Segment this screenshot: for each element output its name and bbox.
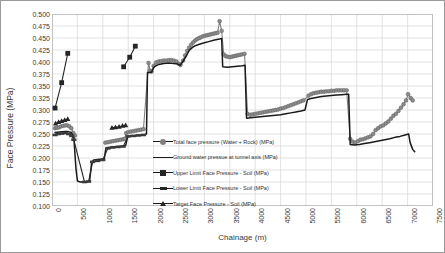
y-tick-label: 0.450 — [32, 35, 50, 42]
x-tick-label: 7000 — [411, 208, 418, 224]
x-tick-label: 6000 — [360, 208, 367, 224]
y-tick-label: 0.275 — [32, 119, 50, 126]
y-tick-label: 0.150 — [32, 179, 50, 186]
series-2 — [53, 44, 138, 111]
legend-item-2: Upper Limit Face Pressure - Soil (MPa) — [153, 165, 303, 181]
y-tick-label: 0.350 — [32, 83, 50, 90]
y-tick-label: 0.500 — [32, 11, 50, 18]
y-tick-label: 0.100 — [32, 203, 50, 210]
legend-marker-square-icon — [153, 168, 173, 178]
legend-marker-circle-icon — [153, 137, 173, 147]
x-tick-label: 0 — [55, 208, 62, 212]
legend-item-1: Ground water pressue at tunnel axis (MPa… — [153, 150, 303, 166]
legend-marker-none-icon — [153, 152, 173, 162]
chart-legend: Total face pressure (Water + Rock) (MPa)… — [153, 134, 303, 212]
series-3 — [52, 132, 146, 184]
y-tick-label: 0.250 — [32, 131, 50, 138]
y-axis-title: Face Pressure (MPa) — [0, 1, 20, 253]
legend-label: Upper Limit Face Pressure - Soil (MPa) — [173, 170, 269, 176]
chart-figure: Face Pressure (MPa) 0.5000.4750.4500.425… — [0, 0, 445, 253]
series-4 — [53, 116, 128, 129]
x-tick-label: 1000 — [106, 208, 113, 224]
y-tick-label: 0.475 — [32, 23, 50, 30]
legend-label: Ground water pressue at tunnel axis (MPa… — [173, 154, 278, 160]
legend-item-3: Lower Limit Face Pressure - Soil (MPa) — [153, 181, 303, 197]
y-tick-label: 0.225 — [32, 143, 50, 150]
y-tick-label: 0.375 — [32, 71, 50, 78]
x-tick-label: 5000 — [309, 208, 316, 224]
legend-label: Lower Limit Face Pressure - Soil (MPa) — [173, 185, 269, 191]
y-tick-label: 0.425 — [32, 47, 50, 54]
x-axis-title: Chainage (m) — [52, 233, 433, 242]
legend-marker-triangle-icon — [153, 199, 173, 209]
legend-label: Target Face Pressure - Soil (MPa) — [173, 201, 256, 207]
y-tick-label: 0.125 — [32, 191, 50, 198]
y-tick-label: 0.300 — [32, 107, 50, 114]
legend-item-4: Target Face Pressure - Soil (MPa) — [153, 196, 303, 212]
y-tick-label: 0.175 — [32, 167, 50, 174]
y-tick-label: 0.200 — [32, 155, 50, 162]
x-tick-label: 7500 — [436, 208, 443, 224]
y-tick-label: 0.400 — [32, 59, 50, 66]
legend-marker-dash-icon — [153, 183, 173, 193]
y-axis-tick-labels: 0.5000.4750.4500.4250.4000.3750.3500.325… — [19, 14, 50, 206]
legend-item-0: Total face pressure (Water + Rock) (MPa) — [153, 134, 303, 150]
x-tick-label: 6500 — [385, 208, 392, 224]
legend-label: Total face pressure (Water + Rock) (MPa) — [173, 139, 274, 145]
x-tick-label: 5500 — [334, 208, 341, 224]
y-tick-label: 0.325 — [32, 95, 50, 102]
x-tick-label: 1500 — [131, 208, 138, 224]
x-axis-tick-labels: 0500100015002000250030003500400045005000… — [52, 208, 433, 234]
x-tick-label: 500 — [80, 208, 87, 220]
